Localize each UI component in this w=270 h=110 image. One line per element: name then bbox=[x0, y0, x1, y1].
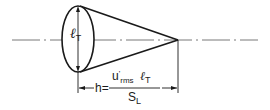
rms-subscript: rms bbox=[120, 76, 133, 85]
height-lhs: h= bbox=[95, 82, 109, 94]
numerator-ell-subscript: T bbox=[145, 75, 151, 85]
diameter-subscript: T bbox=[76, 33, 82, 43]
s-symbol: S bbox=[128, 90, 136, 104]
h-symbol: h bbox=[95, 81, 102, 95]
ell-symbol: ℓ bbox=[70, 25, 76, 41]
cone-lower-edge bbox=[80, 40, 178, 72]
sl-subscript: L bbox=[136, 96, 141, 106]
formula-numerator: u'rms ℓT bbox=[112, 70, 150, 82]
equals-sign: = bbox=[102, 81, 109, 95]
diameter-label: ℓT bbox=[70, 26, 81, 40]
arrowhead-left-icon bbox=[79, 86, 85, 90]
arrowhead-right-icon bbox=[171, 86, 177, 90]
formula-denominator: SL bbox=[128, 91, 141, 103]
u-symbol: u bbox=[112, 69, 119, 83]
cone-upper-edge bbox=[80, 6, 178, 40]
flame-cone-diagram: ℓT h= u'rms ℓT SL bbox=[0, 0, 270, 110]
